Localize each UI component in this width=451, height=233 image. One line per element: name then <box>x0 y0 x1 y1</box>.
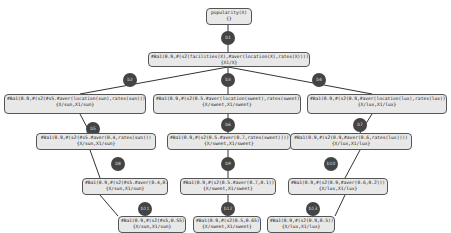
node-level5-lux-line2: {X/lux,X1/lux} <box>270 224 332 230</box>
node-level1-line2: {X1/X} <box>151 60 307 66</box>
circle-node-9: b9 <box>221 157 235 171</box>
node-level4-lux-line2: {X/lux,X1/lux} <box>291 186 385 192</box>
circle-node-1: b1 <box>221 31 235 45</box>
node-level3-sweet: #Ba1(0.9,#(s2(0.5.#aver(0.7,rates(sweet)… <box>167 133 291 150</box>
circle-node-6: b6 <box>221 118 235 132</box>
node-level2-sweet: #Ba1(0.9,#(s2(0.5.#aver(location(sweet),… <box>153 94 301 114</box>
node-level5-lux: #Ba1(0.9,#(s2(0.9,0.5))) {X/lux,X1/lux} <box>267 216 335 233</box>
circle-node-4: b4 <box>312 73 326 87</box>
circle-node-7: b7 <box>353 118 367 132</box>
node-level5-sun: #Ba1(0.9,#(s2(#s5,0.55))) {X/sun,X1/sun} <box>118 216 186 233</box>
circle-node-10: b10 <box>324 157 338 171</box>
node-level2-sweet-line2: {X/sweet,X1/sweet} <box>156 102 298 108</box>
node-level1: #Ba1(0.9,#(s2(facilities(X),#aver(locati… <box>148 52 310 67</box>
node-level4-sweet: #Ba1(0.9,#(s2(0.5.#aver(0.7,0.1))) {X/sw… <box>180 178 276 195</box>
node-level4-sun-line2: {X/sun,X1/sun} <box>85 186 165 192</box>
circle-node-3: b3 <box>221 73 235 87</box>
node-level3-sweet-line2: {X/sweet,X1/sweet} <box>170 141 288 147</box>
node-level2-lux-line2: {X/lux,X1/lux} <box>310 102 444 108</box>
circle-node-11: b11 <box>138 202 152 216</box>
node-level3-sun-line2: {X/sun,X1/sun} <box>39 141 153 147</box>
node-level2-sun-line2: {X/sun,X1/sun} <box>7 102 143 108</box>
node-level5-sweet-line2: {X/sweet,X1/sweet} <box>196 224 258 230</box>
circle-node-8: b8 <box>111 157 125 171</box>
node-root: popularity(X) {} <box>206 8 252 25</box>
circle-node-12: b12 <box>221 202 235 216</box>
node-level4-sweet-line2: {X/sweet,X1/sweet} <box>183 186 273 192</box>
node-level5-sun-line2: {X/sun,X1/sun} <box>121 224 183 230</box>
node-level4-sun: #Ba1(0.9,#(s2(#s5.#aver(0.4,0.7))) {X/su… <box>82 178 168 195</box>
node-level5-sweet: #Ba1(0.9,#(s2(0.5,0.65))) {X/sweet,X1/sw… <box>193 216 261 233</box>
node-level4-lux: #Ba1(0.9,#(s2(0.9,#aver(0.6,0.2))) {X/lu… <box>288 178 388 195</box>
node-level3-lux: #Ba1(0.9,#(s2(0.9,#aver(0.6,rates(lux)))… <box>290 133 412 150</box>
node-root-line2: {} <box>209 16 249 22</box>
node-level3-sun: #Ba1(0.9,#(s2(#s5.#aver(0.4,rates(sun)))… <box>36 133 156 150</box>
circle-node-13: b13 <box>306 202 320 216</box>
circle-node-2: b2 <box>123 73 137 87</box>
node-level2-sun: #Ba1(0.9,#(s2(#s5.#aver(location(sun),ra… <box>4 94 146 114</box>
node-level3-lux-line2: {X/lux,X1/lux} <box>293 141 409 147</box>
node-level2-lux: #Ba1(0.9,#(s2(0.9,#aver(location(lux),ra… <box>307 94 447 114</box>
